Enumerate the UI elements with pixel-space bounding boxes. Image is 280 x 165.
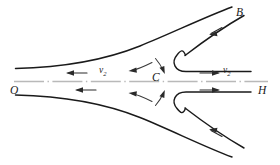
label-right-end: H <box>258 85 266 97</box>
label-velocity-right: v2 <box>223 66 230 77</box>
flow-arrow-inflow-upper-diagonal <box>209 28 222 37</box>
label-center-point: C <box>152 72 160 84</box>
diagram-canvas <box>0 0 280 165</box>
flow-arrow-inflow-lower-diagonal <box>209 128 222 137</box>
flow-arrow-inflow-upper-left <box>66 70 87 76</box>
label-velocity-right-subscript: 2 <box>227 70 230 77</box>
separatrix-lower <box>16 95 233 157</box>
curl-arrow-lower-inward <box>156 90 165 106</box>
flow-arrow-inflow-lower-left <box>75 87 96 93</box>
hook-lower <box>174 92 251 113</box>
label-velocity-left-subscript: 2 <box>103 70 106 77</box>
separatrix-upper <box>16 7 233 69</box>
curl-arrow-upper-outward <box>129 63 153 73</box>
label-upper-branch: B <box>236 7 243 19</box>
hook-upper <box>174 51 251 72</box>
branch-lower-outer <box>185 108 244 148</box>
label-origin: O <box>10 85 18 97</box>
label-velocity-left: v2 <box>99 66 106 77</box>
reconnection-diagram: O H B C v2 v2 <box>0 0 280 165</box>
curl-arrow-lower-outward <box>129 91 153 101</box>
